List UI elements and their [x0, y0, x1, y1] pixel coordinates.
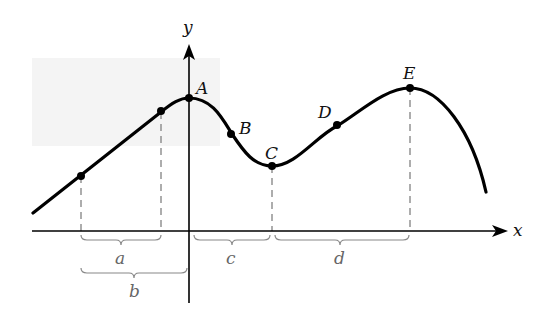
label-A: A: [194, 78, 208, 98]
interval-braces: [81, 235, 409, 278]
interval-label-b: b: [129, 281, 140, 301]
x-axis-label: x: [513, 220, 523, 240]
brace-c: [194, 235, 270, 245]
point-B: [227, 130, 235, 138]
interval-label-d: d: [334, 248, 345, 268]
label-D: D: [317, 102, 332, 122]
point-a-right: [157, 107, 165, 115]
brace-a: [81, 235, 161, 245]
point-D: [333, 121, 341, 129]
brace-b: [81, 268, 187, 278]
interval-label-a: a: [115, 248, 125, 268]
y-axis-label: y: [182, 17, 193, 37]
plot-panel-full: [32, 58, 220, 144]
label-B: B: [238, 118, 252, 138]
function-graph-diagram: y x A B C D E a b c d: [0, 0, 545, 322]
point-A: [185, 94, 193, 102]
point-C: [268, 162, 276, 170]
point-left: [77, 172, 85, 180]
point-E: [406, 84, 414, 92]
label-E: E: [402, 63, 416, 83]
brace-d: [275, 235, 409, 245]
interval-label-c: c: [226, 248, 236, 268]
label-C: C: [265, 143, 278, 163]
